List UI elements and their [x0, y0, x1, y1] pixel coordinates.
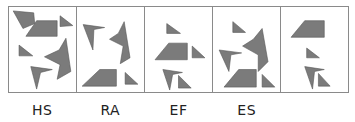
trapezoid-shape: [291, 21, 324, 38]
concave-arrow-shape: [110, 22, 131, 64]
figure-strip: [8, 6, 349, 93]
panel-5-shapes: [281, 7, 348, 92]
label-5: [281, 100, 349, 120]
concave-arrow-shape: [44, 38, 70, 79]
chevron-shape: [83, 25, 104, 50]
panel-ef-shapes: [145, 7, 212, 92]
triangle-shape: [233, 22, 246, 33]
panel-hs: [9, 7, 77, 92]
trapezoid-shape: [82, 70, 116, 87]
triangle-shape: [167, 24, 181, 34]
triangle-shape: [307, 48, 320, 58]
trapezoid-shape: [155, 43, 187, 60]
triangle-shape: [60, 16, 73, 27]
panel-es-shapes: [213, 7, 280, 92]
panel-ra: [77, 7, 145, 92]
panel-labels: HS RA EF ES: [8, 100, 349, 120]
panel-es: [213, 7, 281, 92]
panel-ef: [145, 7, 213, 92]
label-hs: HS: [8, 100, 76, 120]
triangle-shape: [262, 74, 275, 87]
panel-5: [281, 7, 348, 92]
triangle-shape: [318, 73, 330, 86]
chevron-shape: [219, 50, 241, 71]
trapezoid-shape: [224, 70, 256, 88]
triangle-shape: [179, 75, 192, 88]
chevron-shape: [31, 67, 52, 89]
label-es: ES: [213, 100, 281, 120]
triangle-shape: [192, 46, 205, 58]
triangle-shape: [125, 72, 138, 84]
label-ef: EF: [144, 100, 212, 120]
triangle-shape: [19, 45, 33, 56]
concave-arrow-shape: [243, 28, 268, 71]
panel-hs-shapes: [9, 7, 76, 92]
label-ra: RA: [76, 100, 144, 120]
quadrilateral-shape: [13, 11, 34, 29]
panel-ra-shapes: [77, 7, 144, 92]
